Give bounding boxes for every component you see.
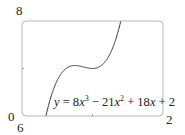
eq-part: = 8 — [60, 95, 80, 109]
eq-part: + 18 — [124, 95, 150, 109]
y-max-label: 8 — [16, 4, 23, 17]
y-min-label: 6 — [17, 121, 24, 134]
x-min-label: 0 — [8, 110, 15, 123]
x-max-label: 2 — [166, 113, 173, 126]
plot-svg — [0, 0, 185, 135]
equation-label: y = 8x3 − 21x2 + 18x + 2 — [54, 95, 175, 110]
eq-part: + 2 — [155, 95, 175, 109]
eq-part: − 21 — [89, 95, 115, 109]
